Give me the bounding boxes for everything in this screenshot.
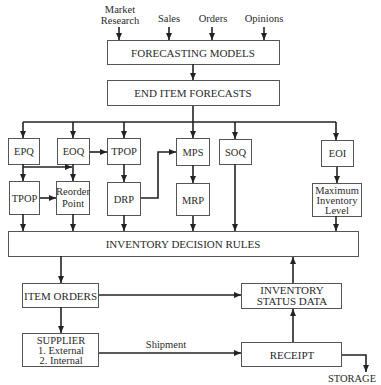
box-epq: EPQ	[9, 139, 40, 165]
input-orders: Orders	[199, 13, 228, 24]
box-label: Reorder	[56, 186, 90, 197]
box-label: STATUS DATA	[257, 295, 328, 307]
box-mps: MPS	[177, 139, 210, 166]
box-label: SOQ	[225, 147, 246, 158]
input-label: Research	[101, 15, 140, 26]
box-eoi: EOI	[322, 141, 354, 167]
box-forecasting-models: FORECASTING MODELS	[108, 41, 280, 65]
box-tpop-lower: TPOP	[10, 182, 40, 215]
box-label: EOQ	[63, 146, 85, 157]
box-label: MPS	[182, 147, 203, 158]
box-label: TPOP	[111, 146, 137, 157]
box-label: END ITEM FORECASTS	[134, 87, 251, 99]
bus-drop-arrows	[23, 122, 336, 140]
input-sales: Sales	[158, 13, 180, 24]
storage-label: STORAGE	[328, 373, 376, 384]
box-label: EPQ	[14, 146, 34, 157]
box-label: MRP	[182, 195, 204, 206]
box-label: FORECASTING MODELS	[131, 47, 255, 59]
box-end-item-forecasts: END ITEM FORECASTS	[108, 81, 280, 106]
box-label: RECEIPT	[270, 349, 315, 361]
box-soq: SOQ	[220, 140, 252, 165]
box-label: ITEM ORDERS	[24, 290, 97, 302]
shipment-label: Shipment	[146, 339, 186, 350]
box-inventory-decision-rules: INVENTORY DECISION RULES	[9, 232, 359, 257]
box-maximum-inventory-level: Maximum Inventory Level	[313, 184, 362, 217]
input-market-research: Market Research	[101, 4, 140, 26]
arrow-down-icon	[342, 355, 366, 372]
box-label: DRP	[114, 194, 135, 205]
box-supplier: SUPPLIER 1. External 2. Internal	[23, 334, 99, 367]
inventory-system-diagram: Market Research Sales Orders Opinions FO…	[0, 0, 381, 385]
box-receipt: RECEIPT	[242, 343, 342, 367]
input-label: Market	[105, 4, 135, 15]
input-arrows	[119, 27, 264, 40]
box-label: TPOP	[12, 193, 38, 204]
box-eoq: EOQ	[58, 139, 90, 165]
box-label: INVENTORY DECISION RULES	[106, 238, 261, 250]
box-item-orders: ITEM ORDERS	[23, 284, 99, 308]
box-label: Point	[62, 198, 84, 209]
box-tpop-upper: TPOP	[108, 139, 141, 165]
box-mrp: MRP	[177, 184, 210, 216]
arrow-right-icon	[141, 152, 176, 198]
box-inventory-status-data: INVENTORY STATUS DATA	[242, 284, 342, 309]
input-opinions: Opinions	[245, 13, 284, 24]
box-label: Level	[325, 205, 349, 216]
box-reorder-point: Reorder Point	[56, 182, 90, 215]
box-label: 2. Internal	[39, 355, 82, 366]
box-drp: DRP	[108, 183, 141, 216]
box-label: EOI	[329, 148, 347, 159]
